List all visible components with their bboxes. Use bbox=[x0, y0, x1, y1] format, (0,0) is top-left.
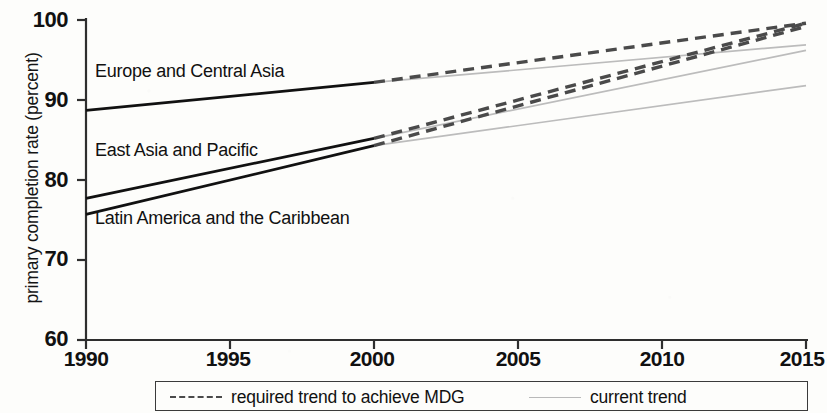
legend-item-required-trend: required trend to achieve MDG bbox=[170, 382, 464, 412]
series-line bbox=[374, 23, 806, 138]
y-axis-ticks bbox=[77, 20, 86, 340]
solid-gray-line-swatch-icon bbox=[529, 395, 581, 399]
dashed-line-swatch-icon bbox=[170, 395, 222, 399]
legend-label-current-trend: current trend bbox=[590, 387, 687, 408]
series-label-east-asia: East Asia and Pacific bbox=[95, 140, 258, 161]
y-tick-label-80: 80 bbox=[22, 167, 68, 193]
legend-label-required-trend: required trend to achieve MDG bbox=[231, 387, 464, 408]
x-tick-label-2015: 2015 bbox=[757, 347, 827, 371]
chart-series-layer bbox=[86, 23, 806, 214]
x-tick-label-2005: 2005 bbox=[473, 347, 563, 371]
series-line bbox=[86, 82, 374, 110]
x-tick-label-2010: 2010 bbox=[617, 347, 707, 371]
y-tick-label-90: 90 bbox=[22, 87, 68, 113]
series-line bbox=[374, 23, 806, 82]
x-tick-label-1995: 1995 bbox=[183, 347, 273, 371]
x-tick-label-1990: 1990 bbox=[41, 347, 131, 371]
series-line bbox=[374, 26, 806, 145]
chart-figure: primary completion rate (percent) 100 90… bbox=[0, 0, 827, 413]
legend-item-current-trend: current trend bbox=[529, 382, 687, 412]
chart-legend: required trend to achieve MDG current tr… bbox=[155, 381, 808, 411]
y-tick-label-100: 100 bbox=[22, 7, 68, 33]
x-tick-label-2000: 2000 bbox=[327, 347, 417, 371]
series-label-latin-america: Latin America and the Caribbean bbox=[95, 208, 349, 229]
series-label-europe: Europe and Central Asia bbox=[95, 61, 284, 82]
y-tick-label-70: 70 bbox=[22, 246, 68, 272]
